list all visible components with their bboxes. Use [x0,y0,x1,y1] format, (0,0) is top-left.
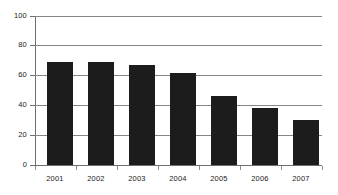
x-axis-label-2001: 2001 [35,174,75,183]
x-axis-label-2003: 2003 [117,174,157,183]
x-axis-tick [117,166,118,170]
y-axis-tick-label: 60 [3,71,27,79]
x-axis-tick [35,166,36,170]
y-axis-tick-label: 20 [3,131,27,139]
y-axis-tick-label: 0 [3,161,27,169]
y-axis-tick-label: 100 [3,12,27,20]
x-axis-label-2007: 2007 [281,174,321,183]
x-axis-label-2006: 2006 [240,174,280,183]
x-axis-label-2004: 2004 [158,174,198,183]
bar-2003 [129,65,155,165]
x-axis-tick [281,166,282,170]
x-axis-tick [76,166,77,170]
x-axis-tick [158,166,159,170]
gridline-80 [35,45,322,46]
bar-chart: 100 80 60 40 20 0 2001 2002 2003 2004 20… [0,0,338,195]
x-axis-label-2005: 2005 [199,174,239,183]
bar-2001 [47,62,73,165]
bar-2007 [293,120,319,165]
bar-2002 [88,62,114,165]
x-axis-line [35,165,322,166]
x-axis-label-2002: 2002 [76,174,116,183]
bar-2006 [252,108,278,165]
bar-2005 [211,96,237,165]
x-axis-tick [322,166,323,170]
x-axis-tick [199,166,200,170]
bar-2004 [170,73,196,165]
y-axis-tick-label: 80 [3,41,27,49]
plot-area [35,16,322,165]
gridline-100 [35,16,322,17]
x-axis-tick [240,166,241,170]
y-axis-tick-label: 40 [3,101,27,109]
